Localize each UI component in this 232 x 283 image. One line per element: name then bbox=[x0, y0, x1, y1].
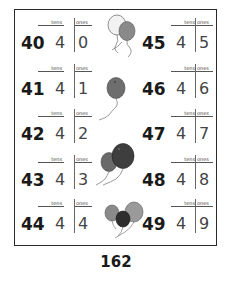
tens-header: tens bbox=[171, 200, 197, 207]
ones-digit: 8 bbox=[199, 170, 209, 189]
number-label: 42 bbox=[21, 124, 45, 144]
ones-header: ones bbox=[74, 65, 92, 72]
column-divider bbox=[74, 199, 75, 233]
ones-header: ones bbox=[195, 156, 213, 163]
tens-digit: 4 bbox=[55, 170, 65, 189]
tens-digit: 4 bbox=[176, 214, 186, 233]
ones-digit: 5 bbox=[199, 33, 209, 52]
ones-digit: 6 bbox=[199, 79, 209, 98]
column-divider bbox=[195, 64, 196, 98]
tens-digit: 4 bbox=[176, 170, 186, 189]
tens-digit: 4 bbox=[176, 79, 186, 98]
number-label: 43 bbox=[21, 170, 45, 190]
number-label: 46 bbox=[142, 79, 166, 99]
ones-header: ones bbox=[74, 19, 92, 26]
ones-header: ones bbox=[195, 110, 213, 117]
balloons-pair-middle-icon bbox=[92, 140, 142, 195]
tens-header: tens bbox=[171, 156, 197, 163]
ones-header: ones bbox=[195, 200, 213, 207]
page-number: 162 bbox=[0, 253, 232, 271]
balloon-single-icon bbox=[96, 78, 136, 124]
tens-digit: 4 bbox=[176, 124, 186, 143]
tens-header: tens bbox=[38, 19, 64, 26]
ones-digit: 2 bbox=[78, 124, 88, 143]
tens-header: tens bbox=[171, 110, 197, 117]
column-divider bbox=[74, 64, 75, 98]
ones-header: ones bbox=[74, 110, 92, 117]
number-label: 45 bbox=[142, 33, 166, 53]
tens-header: tens bbox=[38, 156, 64, 163]
tens-header: tens bbox=[171, 19, 197, 26]
ones-digit: 3 bbox=[78, 170, 88, 189]
ones-header: ones bbox=[74, 200, 92, 207]
number-label: 44 bbox=[21, 214, 45, 234]
ones-digit: 1 bbox=[78, 79, 88, 98]
number-label: 47 bbox=[142, 124, 166, 144]
number-label: 40 bbox=[21, 33, 45, 53]
ones-digit: 9 bbox=[199, 214, 209, 233]
tens-digit: 4 bbox=[176, 33, 186, 52]
number-label: 41 bbox=[21, 79, 45, 99]
number-label: 48 bbox=[142, 170, 166, 190]
tens-digit: 4 bbox=[55, 79, 65, 98]
ones-digit: 0 bbox=[78, 33, 88, 52]
column-divider bbox=[74, 18, 75, 52]
tens-header: tens bbox=[171, 65, 197, 72]
ones-digit: 7 bbox=[199, 124, 209, 143]
ones-header: ones bbox=[74, 156, 92, 163]
tens-digit: 4 bbox=[55, 33, 65, 52]
column-divider bbox=[195, 18, 196, 52]
ones-header: ones bbox=[195, 19, 213, 26]
column-divider bbox=[195, 109, 196, 143]
balloons-trio-bottom-icon bbox=[100, 200, 146, 246]
tens-header: tens bbox=[38, 110, 64, 117]
tens-header: tens bbox=[38, 65, 64, 72]
column-divider bbox=[195, 155, 196, 189]
tens-digit: 4 bbox=[55, 124, 65, 143]
column-divider bbox=[195, 199, 196, 233]
column-divider bbox=[74, 155, 75, 189]
ones-header: ones bbox=[195, 65, 213, 72]
balloons-pair-top-icon bbox=[104, 14, 144, 60]
tens-header: tens bbox=[38, 200, 64, 207]
column-divider bbox=[74, 109, 75, 143]
ones-digit: 4 bbox=[78, 214, 88, 233]
tens-digit: 4 bbox=[55, 214, 65, 233]
